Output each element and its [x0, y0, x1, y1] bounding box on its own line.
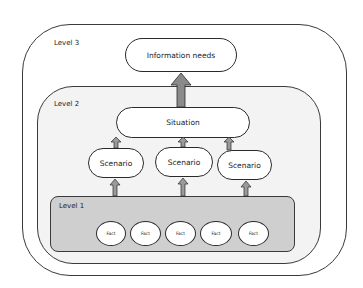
arrow-situation-to-information-needs	[171, 73, 191, 107]
arrow-scenario3-to-situation	[224, 137, 234, 150]
arrow-level1-to-scenario2	[178, 178, 188, 196]
arrow-scenario2-to-situation	[178, 137, 188, 147]
arrows-layer	[0, 0, 363, 288]
arrow-level1-to-scenario1	[110, 179, 120, 196]
arrow-level1-to-scenario3	[241, 181, 251, 196]
arrow-scenario1-to-situation	[111, 137, 121, 148]
